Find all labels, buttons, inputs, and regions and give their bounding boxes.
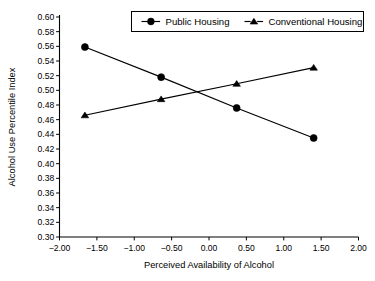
legend-marker-circle xyxy=(148,18,155,25)
x-tick-label: −1.50 xyxy=(86,243,108,253)
x-tick-label: 1.50 xyxy=(313,243,330,253)
y-tick-label: 0.42 xyxy=(38,144,55,154)
data-point xyxy=(81,44,88,51)
series-public-housing xyxy=(81,44,317,142)
y-tick-label: 0.34 xyxy=(38,203,55,213)
line-chart: 0.300.320.340.360.380.400.420.440.460.48… xyxy=(0,0,375,281)
y-tick-label: 0.40 xyxy=(38,159,55,169)
series-line xyxy=(85,68,314,116)
data-point xyxy=(158,74,165,81)
x-tick-label: 1.00 xyxy=(275,243,292,253)
data-point xyxy=(233,104,240,111)
y-tick-label: 0.48 xyxy=(38,100,55,110)
x-tick-label: 0.00 xyxy=(201,243,218,253)
x-axis-title: Perceived Availability of Alcohol xyxy=(144,260,274,270)
y-tick-label: 0.32 xyxy=(38,217,55,227)
x-tick-label: −1.00 xyxy=(123,243,145,253)
y-tick-label: 0.58 xyxy=(38,27,55,37)
series-line xyxy=(85,47,314,138)
y-tick-label: 0.54 xyxy=(38,56,55,66)
data-point xyxy=(310,64,318,70)
legend-label: Conventional Housing xyxy=(269,16,363,27)
x-tick-label: −0.50 xyxy=(161,243,183,253)
y-tick-label: 0.52 xyxy=(38,71,55,81)
y-tick-label: 0.60 xyxy=(38,12,55,22)
y-tick-label: 0.36 xyxy=(38,188,55,198)
y-tick-label: 0.44 xyxy=(38,129,55,139)
x-tick-label: 0.50 xyxy=(238,243,255,253)
y-tick-label: 0.50 xyxy=(38,85,55,95)
chart-legend: Public HousingConventional Housing xyxy=(132,12,364,32)
y-axis-title: Alcohol Use Percentile Index xyxy=(7,67,17,186)
y-tick-label: 0.30 xyxy=(38,232,55,242)
y-tick-label: 0.56 xyxy=(38,41,55,51)
legend-label: Public Housing xyxy=(166,16,230,27)
y-tick-label: 0.46 xyxy=(38,115,55,125)
x-tick-label: −2.00 xyxy=(49,243,71,253)
x-tick-label: 2.00 xyxy=(350,243,367,253)
y-tick-label: 0.38 xyxy=(38,173,55,183)
chart-container: 0.300.320.340.360.380.400.420.440.460.48… xyxy=(0,0,375,281)
data-point xyxy=(310,135,317,142)
series-conventional-housing xyxy=(81,64,317,117)
